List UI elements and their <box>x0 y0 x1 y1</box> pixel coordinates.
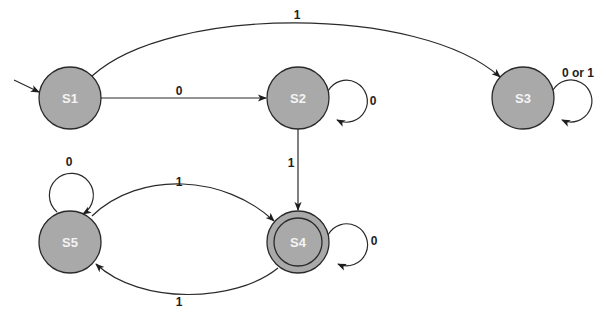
state-s1: S1 <box>39 67 101 129</box>
edge-s4-loop <box>328 224 368 266</box>
state-label: S4 <box>290 235 307 250</box>
state-label: S1 <box>62 91 78 106</box>
state-s2: S2 <box>267 67 329 129</box>
edge-label-s5-s4: 1 <box>176 175 183 189</box>
edge-label-s4-s5: 1 <box>176 295 183 309</box>
state-label: S5 <box>62 235 78 250</box>
state-s4-accepting: S4 <box>267 211 329 273</box>
edge-label-s5-loop: 0 <box>66 155 73 169</box>
edge-s5-s4 <box>92 184 274 221</box>
edge-label-s2-s4: 1 <box>288 156 295 170</box>
edge-s2-loop <box>328 80 367 122</box>
state-s5: S5 <box>39 211 101 273</box>
state-s3: S3 <box>492 67 554 129</box>
edge-label-s4-loop: 0 <box>371 234 378 248</box>
edge-label-s1-s3: 1 <box>294 8 301 22</box>
edge-s3-loop <box>553 80 592 122</box>
start-arrow <box>14 80 39 92</box>
state-diagram: 1 0 0 1 0 or 1 1 1 0 0 S1 S2 S3 S4 S5 <box>0 0 606 321</box>
edge-label-s3-loop: 0 or 1 <box>562 66 594 80</box>
state-label: S3 <box>515 91 531 106</box>
edge-s5-loop <box>49 173 93 214</box>
edge-s4-s5 <box>96 264 278 295</box>
edge-label-s2-loop: 0 <box>370 94 377 108</box>
edge-label-s1-s2: 0 <box>176 84 183 98</box>
state-label: S2 <box>290 91 306 106</box>
